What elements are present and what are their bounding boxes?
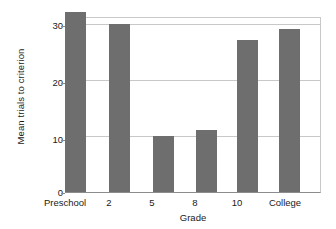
bar-grade-8	[196, 130, 217, 192]
x-tick-label-grade-2: 2	[88, 197, 130, 208]
gridline-30	[66, 24, 320, 25]
bar-college	[279, 29, 300, 192]
x-tick-label-college: College	[252, 197, 318, 208]
y-tick-label-30: 30	[23, 21, 63, 31]
bar-preschool	[65, 12, 86, 192]
plot-area	[65, 17, 321, 193]
bar-grade-10	[237, 40, 258, 192]
bar-chart: Mean trials to criterion 30 20 10 0 Pres…	[0, 0, 336, 229]
x-tick-label-preschool: Preschool	[34, 197, 96, 208]
x-axis-title: Grade	[65, 212, 321, 223]
y-tick-label-20: 20	[23, 78, 63, 88]
bar-grade-5	[153, 136, 174, 192]
y-tick-mark-0	[61, 193, 65, 194]
x-tick-label-grade-5: 5	[131, 197, 173, 208]
bar-grade-2	[109, 24, 130, 192]
y-tick-label-10: 10	[23, 135, 63, 145]
x-tick-label-grade-8: 8	[174, 197, 216, 208]
